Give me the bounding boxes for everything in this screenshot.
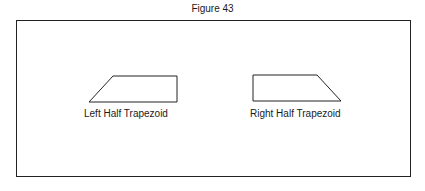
left-half-trapezoid-shape <box>89 76 177 102</box>
right-half-trapezoid-label: Right Half Trapezoid <box>250 108 341 119</box>
right-half-trapezoid-shape <box>253 75 341 101</box>
shapes-canvas <box>0 0 425 191</box>
left-half-trapezoid-label: Left Half Trapezoid <box>84 108 168 119</box>
